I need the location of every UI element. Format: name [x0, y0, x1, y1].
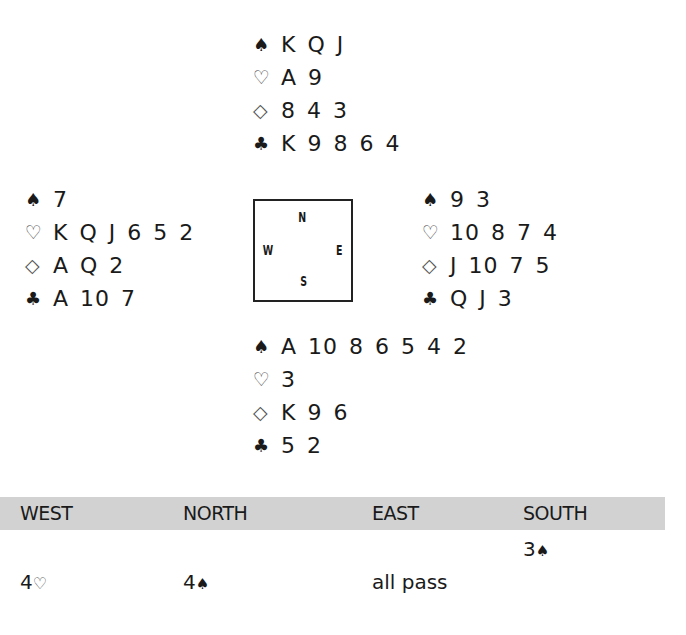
west-diamond-cards: A Q 2	[53, 249, 124, 282]
east-heart-cards: 10 8 7 4	[450, 216, 558, 249]
north-hand: ♠ K Q J ♡ A 9 ◇ 8 4 3 ♣ K 9 8 6 4	[253, 28, 400, 160]
diamond-icon: ◇	[25, 249, 53, 282]
north-diamonds: ◇ 8 4 3	[253, 94, 400, 127]
compass-box: N W E S	[253, 199, 353, 302]
north-hearts: ♡ A 9	[253, 61, 400, 94]
east-diamonds: ◇ J 10 7 5	[422, 249, 558, 282]
club-icon: ♣	[422, 282, 450, 315]
bid-level: 4	[20, 570, 33, 594]
bidding-col-east: EAST	[372, 497, 419, 530]
west-diamonds: ◇ A Q 2	[25, 249, 194, 282]
heart-icon: ♡	[253, 363, 281, 396]
bid-east-row2: all pass	[372, 567, 448, 597]
north-heart-cards: A 9	[281, 61, 323, 94]
south-hearts: ♡ 3	[253, 363, 468, 396]
compass-north-label: N	[298, 209, 306, 225]
west-hand: ♠ 7 ♡ K Q J 6 5 2 ◇ A Q 2 ♣ A 10 7	[25, 183, 194, 315]
club-icon: ♣	[253, 429, 281, 462]
heart-icon: ♡	[253, 61, 281, 94]
club-icon: ♣	[253, 127, 281, 160]
diamond-icon: ◇	[253, 94, 281, 127]
west-spade-cards: 7	[53, 183, 68, 216]
spade-icon: ♠	[253, 28, 281, 61]
spade-icon: ♠	[536, 542, 549, 560]
south-clubs: ♣ 5 2	[253, 429, 468, 462]
bid-south-row1: 3♠	[523, 534, 549, 566]
diamond-icon: ◇	[253, 396, 281, 429]
east-clubs: ♣ Q J 3	[422, 282, 558, 315]
east-hearts: ♡ 10 8 7 4	[422, 216, 558, 249]
south-spade-cards: A 10 8 6 5 4 2	[281, 330, 468, 363]
west-hearts: ♡ K Q J 6 5 2	[25, 216, 194, 249]
compass-east-label: E	[336, 242, 342, 258]
bidding-col-west: WEST	[20, 497, 72, 530]
south-spades: ♠ A 10 8 6 5 4 2	[253, 330, 468, 363]
bid-level: 4	[183, 570, 196, 594]
west-club-cards: A 10 7	[53, 282, 136, 315]
heart-icon: ♡	[25, 216, 53, 249]
club-icon: ♣	[25, 282, 53, 315]
bidding-col-south: SOUTH	[523, 497, 587, 530]
bidding-col-north: NORTH	[183, 497, 247, 530]
compass-west-label: W	[263, 242, 273, 258]
diamond-icon: ◇	[422, 249, 450, 282]
east-spades: ♠ 9 3	[422, 183, 558, 216]
west-spades: ♠ 7	[25, 183, 194, 216]
south-hand: ♠ A 10 8 6 5 4 2 ♡ 3 ◇ K 9 6 ♣ 5 2	[253, 330, 468, 462]
heart-icon: ♡	[422, 216, 450, 249]
north-clubs: ♣ K 9 8 6 4	[253, 127, 400, 160]
east-diamond-cards: J 10 7 5	[450, 249, 550, 282]
east-club-cards: Q J 3	[450, 282, 513, 315]
east-spade-cards: 9 3	[450, 183, 491, 216]
bid-level: 3	[523, 537, 536, 561]
south-diamonds: ◇ K 9 6	[253, 396, 468, 429]
compass-south-label: S	[300, 273, 307, 289]
north-spade-cards: K Q J	[281, 28, 344, 61]
heart-icon: ♡	[33, 574, 47, 593]
south-heart-cards: 3	[281, 363, 296, 396]
spade-icon: ♠	[25, 183, 53, 216]
bidding-header: WEST NORTH EAST SOUTH	[0, 497, 665, 530]
west-heart-cards: K Q J 6 5 2	[53, 216, 194, 249]
south-diamond-cards: K 9 6	[281, 396, 348, 429]
bid-north-row2: 4♠	[183, 567, 209, 599]
west-clubs: ♣ A 10 7	[25, 282, 194, 315]
north-diamond-cards: 8 4 3	[281, 94, 348, 127]
north-club-cards: K 9 8 6 4	[281, 127, 400, 160]
south-club-cards: 5 2	[281, 429, 322, 462]
spade-icon: ♠	[253, 330, 281, 363]
spade-icon: ♠	[422, 183, 450, 216]
north-spades: ♠ K Q J	[253, 28, 400, 61]
east-hand: ♠ 9 3 ♡ 10 8 7 4 ◇ J 10 7 5 ♣ Q J 3	[422, 183, 558, 315]
spade-icon: ♠	[196, 575, 209, 593]
bid-west-row2: 4♡	[20, 567, 47, 599]
